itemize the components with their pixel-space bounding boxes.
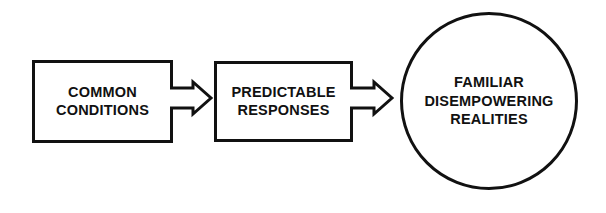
node-familiar-realities-line-1: FAMILIAR <box>454 73 524 92</box>
node-familiar-realities-line-3: REALITIES <box>450 110 528 129</box>
node-familiar-disempowering-realities[interactable]: FAMILIAR DISEMPOWERING REALITIES <box>400 12 578 190</box>
node-familiar-realities-line-2: DISEMPOWERING <box>424 92 553 111</box>
flow-diagram-canvas: COMMON CONDITIONS PREDICTABLE RESPONSES … <box>0 0 606 213</box>
node-predictable-responses[interactable]: PREDICTABLE RESPONSES <box>214 61 353 142</box>
node-common-conditions[interactable]: COMMON CONDITIONS <box>32 60 173 143</box>
block-arrow-right-icon <box>170 80 212 116</box>
node-common-conditions-line-1: COMMON <box>68 84 137 102</box>
node-predictable-responses-line-2: RESPONSES <box>237 102 329 120</box>
block-arrow-right-icon <box>350 80 394 116</box>
node-common-conditions-line-2: CONDITIONS <box>56 102 149 120</box>
node-predictable-responses-line-1: PREDICTABLE <box>231 84 335 102</box>
